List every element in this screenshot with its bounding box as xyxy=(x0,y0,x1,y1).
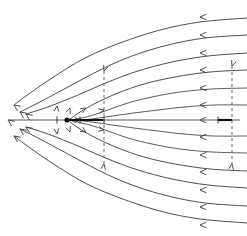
streamline-figure xyxy=(0,0,247,236)
flow-field-canvas xyxy=(0,0,247,236)
stagnation-point-marker xyxy=(64,117,69,122)
figure-background xyxy=(0,0,247,236)
